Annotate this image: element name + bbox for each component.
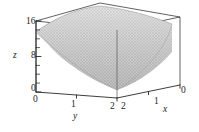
z-tick-label-16: 16 (26, 17, 36, 27)
x-tick-label-0: 0 (181, 86, 186, 96)
x-tick-label-1: 1 (154, 97, 159, 107)
y-tick-label-2: 2 (110, 102, 115, 112)
surface-mesh (36, 6, 172, 90)
z-axis-title: z (13, 51, 17, 61)
surface-plot-figure: 16 8 0 z 0 1 2 y 2 1 0 x (0, 0, 199, 132)
y-tick-label-1: 1 (71, 100, 76, 110)
y-tick-label-0: 0 (33, 95, 38, 105)
y-axis (36, 92, 117, 101)
x-axis (117, 85, 180, 98)
x-axis-title: x (163, 105, 167, 115)
z-tick-label-0: 0 (31, 84, 36, 94)
z-tick-label-8: 8 (31, 51, 36, 61)
x-tick-label-2: 2 (121, 102, 126, 112)
y-axis-title: y (73, 112, 77, 122)
